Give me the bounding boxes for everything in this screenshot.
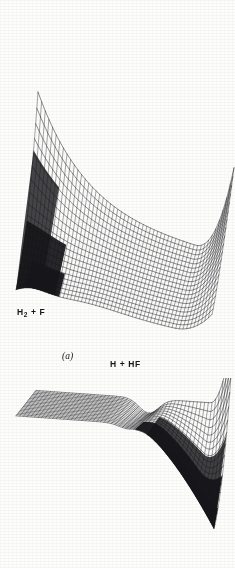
panel-a-product-label: H + HF [110,360,141,369]
figure-root: H2 + F H + HF (a) H2 + F H + HF (b) [0,0,235,568]
panel-a: H2 + F H + HF (a) [0,0,235,380]
panel-b-surface [0,378,235,568]
panel-a-surface [0,0,235,380]
panel-b: H2 + F H + HF (b) [0,378,235,568]
panel-a-tag: (a) [62,352,73,362]
panel-a-reactant-label: H2 + F [17,308,45,317]
